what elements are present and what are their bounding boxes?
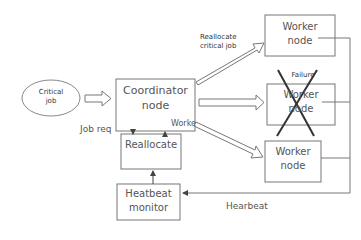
worker-3-label: Worker node (265, 145, 321, 172)
worker-2-label: Worker node (267, 88, 335, 115)
submit-arrow (85, 91, 111, 106)
job-req-label: Job req (80, 123, 112, 135)
reallocate-label: Reallocate (121, 138, 181, 152)
arrow-to-worker-3 (194, 122, 263, 158)
arrow-to-worker-2 (199, 95, 264, 110)
worker-edge-label: Worke (171, 119, 196, 130)
heartbeat-label: Hearbeat (226, 200, 268, 212)
worker-1-label: Worker node (265, 20, 335, 47)
failure-label: Failure (283, 71, 323, 80)
critical-job-label: Critical job (31, 88, 71, 107)
heartbeat-monitor-label: Heatbeat monitor (117, 187, 180, 214)
coordinator-label: Coordinator node (116, 84, 195, 114)
reallocate-critical-label: Reallocate critical job (200, 33, 250, 52)
